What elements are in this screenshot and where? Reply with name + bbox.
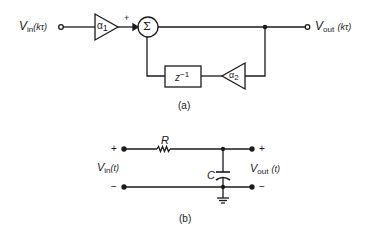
vout-subscript: out <box>323 25 334 34</box>
delay-label: z−1 <box>175 71 189 83</box>
vin-subscript: in <box>27 25 33 34</box>
capacitor-label: C <box>207 170 215 181</box>
alpha2-subscript: 2 <box>234 73 238 82</box>
vout-symbol: V <box>315 19 323 33</box>
vin-t-argument: (t) <box>111 163 120 173</box>
gain2-label: α2 <box>229 71 239 80</box>
caption-b: (b) <box>179 214 191 224</box>
in-minus-sign: − <box>111 182 117 192</box>
input-label-a: Vin(kτ) <box>19 20 47 32</box>
arrow-into-sum <box>133 24 138 30</box>
z-exponent: −1 <box>180 70 189 79</box>
vout-t-argument: (t) <box>272 164 281 174</box>
resistor-label: R <box>161 135 169 146</box>
vout-argument: (kτ) <box>337 22 351 32</box>
alpha1-subscript: 1 <box>103 23 108 33</box>
sum-symbol: Σ <box>143 21 151 32</box>
caption-a: (a) <box>178 101 190 111</box>
output-label-b: Vout (t) <box>250 163 280 174</box>
ground-icon <box>217 198 229 203</box>
resistor-symbol <box>157 147 170 152</box>
out-plus-sign: + <box>259 144 265 154</box>
alpha1-symbol: α <box>97 20 103 31</box>
out-minus-sign: − <box>259 182 265 192</box>
input-label-b: Vin(t) <box>97 162 119 173</box>
rc-circuit-b <box>122 147 254 204</box>
output-terminal <box>305 25 310 30</box>
diagram-canvas <box>0 0 372 232</box>
vin-t-subscript: in <box>104 166 110 175</box>
output-label-a: Vout (kτ) <box>315 20 351 32</box>
gain1-label: α1 <box>97 21 108 31</box>
vin-symbol: V <box>19 19 27 33</box>
in-plus-sign: + <box>111 144 117 154</box>
vout-t-subscript: out <box>257 167 268 176</box>
sum-plus-sign: + <box>124 14 129 23</box>
input-terminal <box>59 25 64 30</box>
vin-argument: (kτ) <box>33 22 47 32</box>
